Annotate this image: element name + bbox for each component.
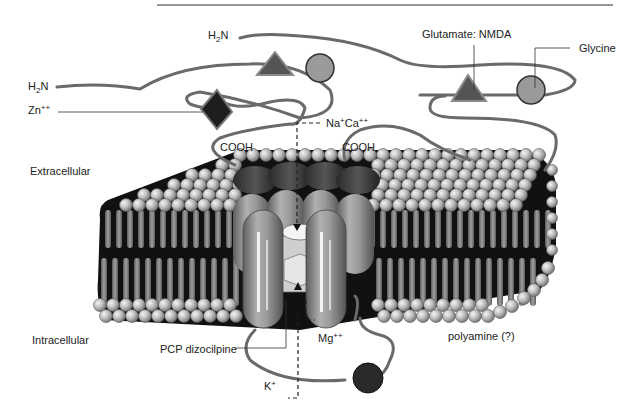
lipid-tail <box>160 210 166 248</box>
diagram-canvas <box>0 0 640 412</box>
lipid-tail <box>497 258 503 306</box>
lipid-head <box>185 199 198 212</box>
lipid-head <box>458 199 471 212</box>
lipid-tail <box>501 210 507 248</box>
pcp-dizocilpine-label: PCP dizocilpine <box>160 343 237 355</box>
lipid-head <box>299 149 312 162</box>
n-terminus-label-left: H2N <box>28 80 48 92</box>
n-terminus-h: H <box>208 29 216 41</box>
sodium-symbol: Na <box>326 117 340 129</box>
lipid-head <box>113 310 126 323</box>
lipid-head <box>139 310 152 323</box>
lipid-head <box>198 199 211 212</box>
lipid-tail <box>446 210 452 248</box>
magnesium-symbol: Mg <box>318 332 333 344</box>
lipid-tail <box>435 210 441 248</box>
lipid-head <box>547 197 558 208</box>
glycine-site-circle <box>517 76 545 104</box>
lipid-head <box>378 310 391 323</box>
lipid-head <box>146 199 159 212</box>
lipid-tail <box>523 210 529 248</box>
polyamine-site-circle <box>353 363 383 393</box>
lipid-head <box>547 245 558 256</box>
lipid-head <box>165 310 178 323</box>
lipid-tail <box>167 258 173 306</box>
sodium-calcium-label: Na+Ca++ <box>326 117 368 129</box>
lipid-head <box>417 310 430 323</box>
lipid-head <box>211 199 224 212</box>
magnesium-label: Mg++ <box>318 332 343 344</box>
lipid-head <box>506 300 519 313</box>
zinc-charge: ++ <box>41 103 50 112</box>
extracellular-label: Extracellular <box>30 165 91 177</box>
lipid-head <box>312 149 325 162</box>
lipid-tail <box>413 210 419 248</box>
lipid-head <box>191 310 204 323</box>
lipid-head <box>536 274 549 287</box>
n-terminus-h: H <box>28 80 36 92</box>
lipid-tail <box>127 210 133 248</box>
lipid-tail <box>380 210 386 248</box>
lipid-tail <box>420 258 426 306</box>
lipid-tail <box>457 210 463 248</box>
nmda-receptor-diagram: H2N H2N Zn++ Glutamate: NMDA Glycine Na+… <box>0 0 640 412</box>
lipid-tail <box>105 210 111 248</box>
lipid-tail <box>486 258 492 306</box>
lipid-head <box>547 181 558 192</box>
lipid-tail <box>226 210 232 248</box>
n-terminus-n: N <box>220 29 228 41</box>
polyamine-label: polyamine (?) <box>448 330 515 342</box>
lipid-head <box>542 262 555 275</box>
lipid-head <box>404 310 417 323</box>
lipid-tail <box>215 210 221 248</box>
lipid-tail <box>479 210 485 248</box>
lipid-tail <box>138 210 144 248</box>
lipid-head <box>510 199 523 212</box>
n-terminus-n: N <box>40 80 48 92</box>
lipid-head <box>380 199 393 212</box>
zinc-label: Zn++ <box>28 104 50 116</box>
lipid-head <box>172 199 185 212</box>
lipid-head <box>456 310 469 323</box>
calcium-symbol: Ca <box>345 117 359 129</box>
magnesium-charge: ++ <box>333 331 342 340</box>
lipid-head <box>471 199 484 212</box>
lipid-tail <box>409 258 415 306</box>
lipid-head <box>126 310 139 323</box>
lipid-tail <box>468 210 474 248</box>
glutamate-site-triangle <box>452 75 486 101</box>
cooh-label-right: COOH <box>342 141 375 153</box>
lipid-tail <box>171 210 177 248</box>
lipid-tail <box>530 258 536 306</box>
lipid-head <box>204 310 217 323</box>
lipid-head <box>230 310 243 323</box>
lipid-tail <box>402 210 408 248</box>
lipid-head <box>419 199 432 212</box>
lipid-head <box>325 149 338 162</box>
n-terminus-label-top: H2N <box>208 29 228 41</box>
lipid-head <box>391 310 404 323</box>
lipid-head <box>133 199 146 212</box>
lipid-head <box>100 310 113 323</box>
lipid-tail <box>156 258 162 306</box>
lipid-tail <box>182 210 188 248</box>
lipid-tail <box>512 210 518 248</box>
lipid-head <box>273 149 286 162</box>
cooh-label-left: COOH <box>220 141 253 153</box>
lipid-head <box>482 310 495 323</box>
lipid-tail <box>391 210 397 248</box>
lipid-tail <box>193 210 199 248</box>
lipid-head <box>406 199 419 212</box>
glutamate-label: Glutamate: NMDA <box>422 28 511 40</box>
lipid-tail <box>204 210 210 248</box>
lipid-head <box>393 199 406 212</box>
lipid-head <box>430 310 443 323</box>
glycine-label: Glycine <box>579 42 616 54</box>
zinc-symbol: Zn <box>28 104 41 116</box>
lipid-head <box>469 310 482 323</box>
lipid-head <box>217 310 230 323</box>
lipid-tail <box>222 258 228 306</box>
glycine-site-circle-top <box>306 54 334 82</box>
lipid-tail <box>424 210 430 248</box>
intracellular-label: Intracellular <box>32 334 89 346</box>
